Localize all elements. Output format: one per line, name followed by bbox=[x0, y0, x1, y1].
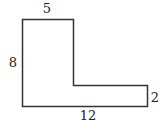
left-side-label: 8 bbox=[9, 55, 17, 70]
right-side-label: 2 bbox=[151, 90, 159, 105]
bottom-side-label: 12 bbox=[80, 108, 97, 121]
top-side-label: 5 bbox=[43, 1, 51, 16]
l-shape-outline bbox=[23, 20, 148, 107]
l-shape-diagram: 5 8 2 12 bbox=[0, 0, 160, 121]
